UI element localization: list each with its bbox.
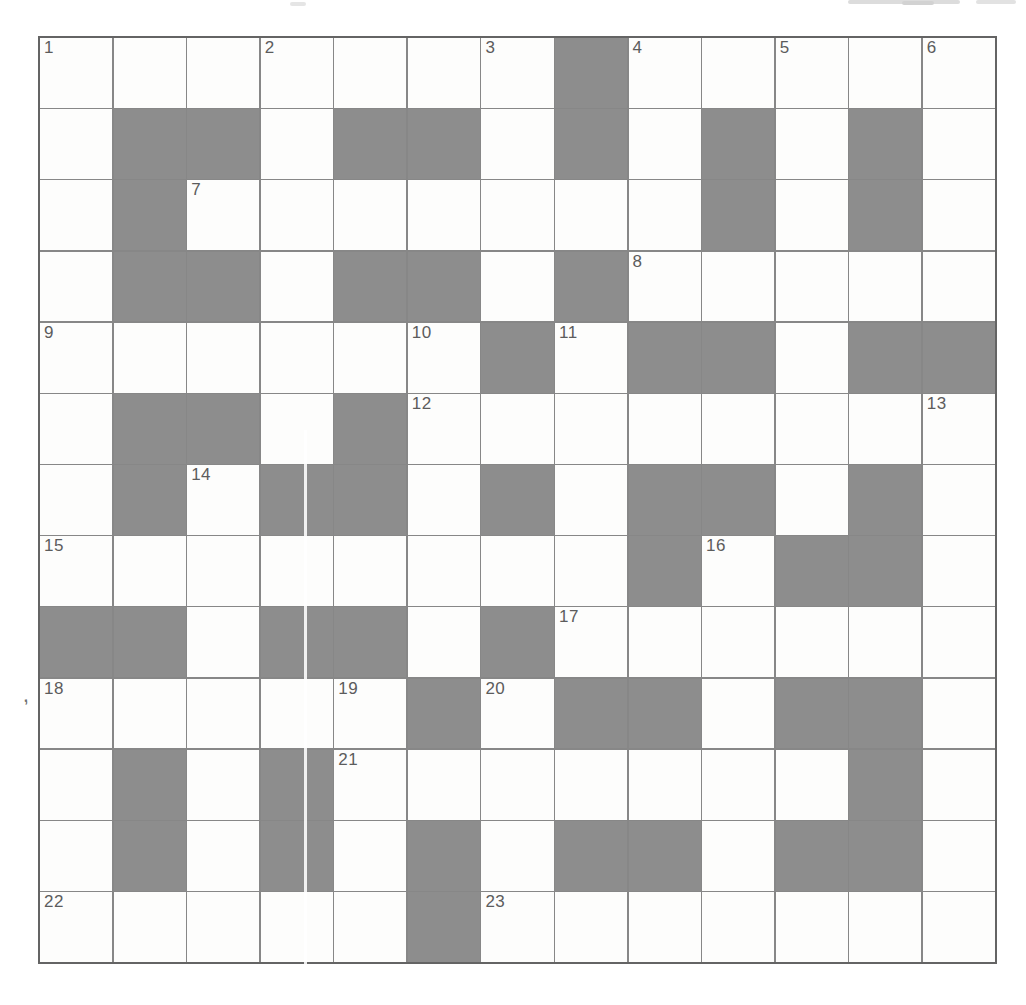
- letter-cell-r0c3[interactable]: 2: [261, 38, 333, 108]
- letter-cell-r3c6[interactable]: [481, 252, 553, 322]
- letter-cell-r8c10[interactable]: [776, 607, 848, 677]
- letter-cell-r7c3[interactable]: [261, 536, 333, 606]
- letter-cell-r7c5[interactable]: [408, 536, 480, 606]
- letter-cell-r3c10[interactable]: [776, 252, 848, 322]
- letter-cell-r9c4[interactable]: 19: [334, 679, 406, 749]
- letter-cell-r12c9[interactable]: [702, 892, 774, 962]
- letter-cell-r10c2[interactable]: [187, 750, 259, 820]
- letter-cell-r5c0[interactable]: [40, 394, 112, 464]
- letter-cell-r7c6[interactable]: [481, 536, 553, 606]
- letter-cell-r3c8[interactable]: 8: [629, 252, 701, 322]
- letter-cell-r12c12[interactable]: [923, 892, 995, 962]
- letter-cell-r3c11[interactable]: [849, 252, 921, 322]
- letter-cell-r4c3[interactable]: [261, 323, 333, 393]
- letter-cell-r2c8[interactable]: [629, 180, 701, 250]
- letter-cell-r9c2[interactable]: [187, 679, 259, 749]
- letter-cell-r2c12[interactable]: [923, 180, 995, 250]
- letter-cell-r12c10[interactable]: [776, 892, 848, 962]
- letter-cell-r9c0[interactable]: 18: [40, 679, 112, 749]
- letter-cell-r1c3[interactable]: [261, 109, 333, 179]
- letter-cell-r12c11[interactable]: [849, 892, 921, 962]
- letter-cell-r5c11[interactable]: [849, 394, 921, 464]
- letter-cell-r12c6[interactable]: 23: [481, 892, 553, 962]
- letter-cell-r12c2[interactable]: [187, 892, 259, 962]
- letter-cell-r0c8[interactable]: 4: [629, 38, 701, 108]
- letter-cell-r3c12[interactable]: [923, 252, 995, 322]
- letter-cell-r0c2[interactable]: [187, 38, 259, 108]
- letter-cell-r12c7[interactable]: [555, 892, 627, 962]
- letter-cell-r8c11[interactable]: [849, 607, 921, 677]
- letter-cell-r11c4[interactable]: [334, 821, 406, 891]
- letter-cell-r2c6[interactable]: [481, 180, 553, 250]
- letter-cell-r6c12[interactable]: [923, 465, 995, 535]
- letter-cell-r7c1[interactable]: [114, 536, 186, 606]
- letter-cell-r4c7[interactable]: 11: [555, 323, 627, 393]
- letter-cell-r11c2[interactable]: [187, 821, 259, 891]
- letter-cell-r7c12[interactable]: [923, 536, 995, 606]
- letter-cell-r7c0[interactable]: 15: [40, 536, 112, 606]
- letter-cell-r4c0[interactable]: 9: [40, 323, 112, 393]
- letter-cell-r12c4[interactable]: [334, 892, 406, 962]
- letter-cell-r2c4[interactable]: [334, 180, 406, 250]
- letter-cell-r9c1[interactable]: [114, 679, 186, 749]
- letter-cell-r5c9[interactable]: [702, 394, 774, 464]
- letter-cell-r0c4[interactable]: [334, 38, 406, 108]
- letter-cell-r7c7[interactable]: [555, 536, 627, 606]
- letter-cell-r2c5[interactable]: [408, 180, 480, 250]
- letter-cell-r10c7[interactable]: [555, 750, 627, 820]
- letter-cell-r11c9[interactable]: [702, 821, 774, 891]
- letter-cell-r7c4[interactable]: [334, 536, 406, 606]
- letter-cell-r8c12[interactable]: [923, 607, 995, 677]
- letter-cell-r1c6[interactable]: [481, 109, 553, 179]
- letter-cell-r4c1[interactable]: [114, 323, 186, 393]
- letter-cell-r6c5[interactable]: [408, 465, 480, 535]
- letter-cell-r2c2[interactable]: 7: [187, 180, 259, 250]
- letter-cell-r2c10[interactable]: [776, 180, 848, 250]
- letter-cell-r10c4[interactable]: 21: [334, 750, 406, 820]
- letter-cell-r1c0[interactable]: [40, 109, 112, 179]
- letter-cell-r0c6[interactable]: 3: [481, 38, 553, 108]
- letter-cell-r0c5[interactable]: [408, 38, 480, 108]
- letter-cell-r8c5[interactable]: [408, 607, 480, 677]
- letter-cell-r5c3[interactable]: [261, 394, 333, 464]
- letter-cell-r2c7[interactable]: [555, 180, 627, 250]
- letter-cell-r10c0[interactable]: [40, 750, 112, 820]
- letter-cell-r0c11[interactable]: [849, 38, 921, 108]
- letter-cell-r8c9[interactable]: [702, 607, 774, 677]
- letter-cell-r0c1[interactable]: [114, 38, 186, 108]
- letter-cell-r9c3[interactable]: [261, 679, 333, 749]
- letter-cell-r6c10[interactable]: [776, 465, 848, 535]
- letter-cell-r10c10[interactable]: [776, 750, 848, 820]
- letter-cell-r9c12[interactable]: [923, 679, 995, 749]
- letter-cell-r3c0[interactable]: [40, 252, 112, 322]
- letter-cell-r11c6[interactable]: [481, 821, 553, 891]
- letter-cell-r12c3[interactable]: [261, 892, 333, 962]
- letter-cell-r0c12[interactable]: 6: [923, 38, 995, 108]
- letter-cell-r11c12[interactable]: [923, 821, 995, 891]
- letter-cell-r5c5[interactable]: 12: [408, 394, 480, 464]
- letter-cell-r8c7[interactable]: 17: [555, 607, 627, 677]
- letter-cell-r1c8[interactable]: [629, 109, 701, 179]
- letter-cell-r5c8[interactable]: [629, 394, 701, 464]
- letter-cell-r5c10[interactable]: [776, 394, 848, 464]
- letter-cell-r0c0[interactable]: 1: [40, 38, 112, 108]
- letter-cell-r9c9[interactable]: [702, 679, 774, 749]
- letter-cell-r10c12[interactable]: [923, 750, 995, 820]
- letter-cell-r6c2[interactable]: 14: [187, 465, 259, 535]
- letter-cell-r12c8[interactable]: [629, 892, 701, 962]
- letter-cell-r0c9[interactable]: [702, 38, 774, 108]
- letter-cell-r4c4[interactable]: [334, 323, 406, 393]
- letter-cell-r0c10[interactable]: 5: [776, 38, 848, 108]
- letter-cell-r5c12[interactable]: 13: [923, 394, 995, 464]
- letter-cell-r4c5[interactable]: 10: [408, 323, 480, 393]
- letter-cell-r8c8[interactable]: [629, 607, 701, 677]
- letter-cell-r10c6[interactable]: [481, 750, 553, 820]
- letter-cell-r10c8[interactable]: [629, 750, 701, 820]
- letter-cell-r1c10[interactable]: [776, 109, 848, 179]
- letter-cell-r10c5[interactable]: [408, 750, 480, 820]
- letter-cell-r7c9[interactable]: 16: [702, 536, 774, 606]
- letter-cell-r5c6[interactable]: [481, 394, 553, 464]
- letter-cell-r7c2[interactable]: [187, 536, 259, 606]
- letter-cell-r5c7[interactable]: [555, 394, 627, 464]
- letter-cell-r12c0[interactable]: 22: [40, 892, 112, 962]
